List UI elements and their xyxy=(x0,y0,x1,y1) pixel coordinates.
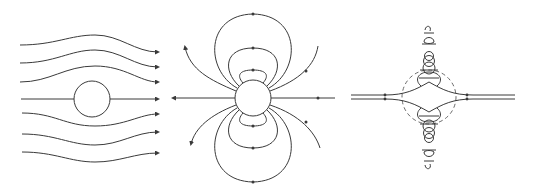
sphere-2 xyxy=(235,80,271,116)
panel-uniform-flow xyxy=(20,35,158,162)
panel-dipole-field xyxy=(173,13,335,184)
sphere-1 xyxy=(74,81,110,117)
diagram-canvas xyxy=(0,0,535,191)
flow-diagram-figure xyxy=(0,0,535,191)
panel-combined-flow xyxy=(351,26,515,168)
